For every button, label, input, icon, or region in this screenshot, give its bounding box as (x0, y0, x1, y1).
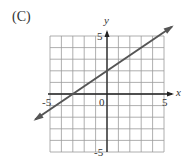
y-max-tick: 5 (97, 30, 103, 42)
y-axis-label: y (104, 14, 109, 26)
x-max-tick: 5 (162, 96, 168, 108)
y-axis-arrow-icon (105, 30, 110, 37)
y-min-tick: -5 (94, 146, 103, 158)
origin-tick: 0 (99, 96, 105, 108)
x-min-tick: -5 (42, 96, 51, 108)
x-axis-label: x (176, 86, 181, 98)
line-arrow-start-icon (34, 112, 44, 120)
x-axis-arrow-icon (167, 92, 174, 97)
coordinate-plane (0, 0, 190, 163)
line-arrow-end-icon (164, 26, 174, 34)
